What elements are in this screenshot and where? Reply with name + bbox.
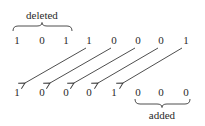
shift-arrow-icon: [50, 48, 111, 83]
shift-arrows: [25, 48, 182, 83]
shifted-bit: 0: [158, 86, 164, 98]
original-bit: 1: [86, 34, 92, 46]
original-bit: 1: [183, 34, 189, 46]
original-bit: 1: [14, 34, 20, 46]
shifted-bit: 0: [86, 86, 92, 98]
added-label: added: [149, 109, 176, 121]
deleted-label: deleted: [26, 9, 58, 21]
original-bit: 0: [39, 34, 45, 46]
shift-diagram: deleted 1 0 1 1 0 0 0 1 1 0 0 0 1 0 0 0 …: [0, 0, 205, 126]
original-bits-row: 1 0 1 1 0 0 0 1: [14, 34, 189, 46]
shifted-bit: 1: [14, 86, 20, 98]
original-bit: 0: [135, 34, 141, 46]
added-brace-icon: [135, 99, 190, 108]
shift-arrow-icon: [98, 48, 158, 83]
shifted-bit: 0: [39, 86, 45, 98]
original-bit: 0: [158, 34, 164, 46]
shifted-bit: 1: [111, 86, 117, 98]
shifted-bit: 0: [135, 86, 141, 98]
shifted-bit: 0: [63, 86, 69, 98]
original-bit: 0: [111, 34, 117, 46]
original-bit: 1: [63, 34, 69, 46]
shift-arrow-icon: [25, 48, 86, 83]
shift-arrow-icon: [123, 48, 182, 83]
deleted-brace-icon: [13, 23, 72, 32]
shift-arrow-icon: [74, 48, 135, 83]
shifted-bits-row: 1 0 0 0 1 0 0 0: [14, 86, 189, 98]
shifted-bit: 0: [183, 86, 189, 98]
